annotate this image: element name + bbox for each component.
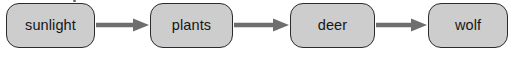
food-chain-diagram: sunlight plants deer wolf — [0, 0, 515, 74]
node-label: sunlight — [25, 18, 76, 33]
arrow-sunlight-to-plants — [96, 19, 149, 32]
node-label: plants — [172, 18, 211, 33]
node-sunlight[interactable]: sunlight — [6, 3, 95, 48]
node-wolf[interactable]: wolf — [428, 3, 508, 48]
node-plants[interactable]: plants — [150, 3, 233, 48]
node-label: wolf — [455, 18, 481, 33]
arrow-plants-to-deer — [234, 19, 289, 32]
scan-speck-artifact — [73, 0, 76, 2]
node-deer[interactable]: deer — [290, 3, 375, 48]
arrow-deer-to-wolf — [376, 19, 427, 32]
node-label: deer — [318, 18, 347, 33]
